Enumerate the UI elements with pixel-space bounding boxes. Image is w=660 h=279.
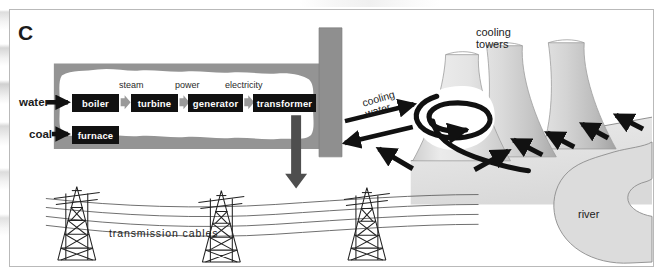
steam-flow-label: steam [119, 81, 144, 91]
pylon-1 [54, 187, 100, 260]
turbine-box: turbine [131, 94, 178, 112]
figure-panel-c: C water coal steam power electricity boi… [0, 0, 660, 279]
coal-input-label: coal [29, 128, 52, 140]
transformer-box: transformer [253, 94, 316, 112]
scan-top-artifact [300, 0, 440, 7]
furnace-box: furnace [72, 126, 119, 144]
panel-letter: C [18, 22, 34, 45]
scan-edge-artifact [0, 0, 9, 279]
cooling-towers-label-line2: towers [476, 39, 511, 51]
boiler-box: boiler [72, 94, 119, 112]
generator-box: generator [188, 94, 243, 112]
diagram-plate: C water coal steam power electricity boi… [9, 9, 654, 267]
transmission-cables-label: transmission cables [109, 228, 218, 239]
cooling-water-outflow-arrow [345, 127, 413, 143]
cooling-towers-label: cooling towers [476, 27, 511, 51]
electricity-flow-label: electricity [225, 81, 263, 91]
cooling-tower-3 [542, 40, 616, 149]
water-input-label: water [19, 96, 49, 108]
power-flow-label: power [175, 81, 200, 91]
river-label: river [578, 209, 599, 221]
